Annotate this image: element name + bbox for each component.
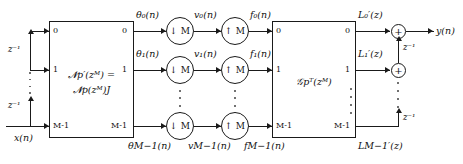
adder-plus-0: +: [394, 27, 402, 37]
output-riser-ellipsis: [397, 82, 399, 108]
l-arrow-0: [385, 28, 390, 34]
l-label-0: L₀′(z): [358, 9, 383, 20]
synthesis-block-label: 𝒢pᵀ(zᴹ): [273, 76, 355, 89]
analysis-out-port-1: 1: [122, 65, 127, 74]
theta-label-0: θ₀(n): [136, 9, 159, 20]
expander-1[interactable]: ↑ M: [221, 56, 249, 84]
l-label-m1: LM−1′(z): [358, 140, 403, 151]
expander-label-0: ↑ M: [225, 26, 246, 36]
f-label-m1: fM−1(n): [244, 140, 285, 151]
adder-plus-1: +: [394, 66, 402, 76]
v-label-m1: vM−1(n): [188, 140, 231, 151]
output-label: y(n): [436, 25, 455, 36]
synthesis-out-port-1: 1: [345, 65, 350, 74]
synthesis-in-port-m1: M-1: [276, 121, 292, 130]
decimator-label-1: ↓ M: [170, 65, 191, 75]
output-delay-arrow-lower: [396, 108, 402, 113]
analysis-out-port-m1: M-1: [111, 121, 127, 130]
synthesis-block-ellipsis: [350, 88, 352, 114]
expander-0[interactable]: ↑ M: [221, 17, 249, 45]
synthesis-in-port-1: 1: [276, 65, 281, 74]
block-diagram-canvas: x(n) z⁻¹ z⁻¹ 𝓝p′(zᴹ) = 𝓝p(zᴹ)J 0 1 M-1 0…: [0, 0, 463, 164]
input-delay-line-upper: [30, 33, 31, 70]
analysis-in-port-m1: M-1: [53, 121, 69, 130]
decimator-label-m1: ↓ M: [170, 121, 191, 131]
output-delay-arrow-upper: [396, 36, 402, 41]
analysis-in-port-1: 1: [53, 65, 58, 74]
synthesis-out-port-0: 0: [345, 26, 350, 35]
decimator-1[interactable]: ↓ M: [166, 56, 194, 84]
input-delay-line-lower: [30, 100, 31, 127]
decimator-0[interactable]: ↓ M: [166, 17, 194, 45]
decimator-m1[interactable]: ↓ M: [166, 112, 194, 140]
output-delay-line-upper: [398, 39, 399, 63]
v-label-1: v₁(n): [194, 48, 217, 59]
expander-label-m1: ↑ M: [225, 121, 246, 131]
input-label: x(n): [14, 132, 33, 143]
l-line-m1: [356, 126, 399, 127]
theta-label-1: θ₁(n): [136, 48, 159, 59]
output-delay-label-lower: z⁻¹: [403, 112, 415, 122]
expander-column-ellipsis: [234, 90, 236, 114]
decimator-label-0: ↓ M: [170, 26, 191, 36]
analysis-block-label-line1: 𝓝p′(zᴹ) =: [50, 69, 133, 82]
theta-label-m1: θM−1(n): [128, 140, 171, 151]
analysis-block-label-line2: 𝓝p(zᴹ)J: [50, 84, 133, 97]
f-label-1: f₁(n): [250, 48, 271, 59]
decimator-column-ellipsis: [179, 90, 181, 114]
adder-1[interactable]: +: [391, 63, 406, 78]
analysis-out-port-0: 0: [122, 26, 127, 35]
output-arrow: [428, 28, 433, 34]
input-delay-arrow-lower: [28, 96, 34, 101]
f-label-0: f₀(n): [250, 9, 271, 20]
input-riser-ellipsis: [29, 72, 31, 94]
expander-m1[interactable]: ↑ M: [221, 112, 249, 140]
input-delay-label-upper: z⁻¹: [8, 44, 20, 54]
input-delay-label-lower: z⁻¹: [8, 100, 20, 110]
output-delay-label-upper: z⁻¹: [403, 42, 415, 52]
analysis-in-port-0: 0: [53, 26, 58, 35]
synthesis-out-port-m1: M-1: [334, 121, 350, 130]
expander-label-1: ↑ M: [225, 65, 246, 75]
output-delay-line-lower: [398, 112, 399, 127]
synthesis-in-port-0: 0: [276, 26, 281, 35]
l-arrow-1: [385, 67, 390, 73]
l-label-1: L₁′(z): [358, 48, 383, 59]
v-label-0: v₀(n): [194, 9, 217, 20]
